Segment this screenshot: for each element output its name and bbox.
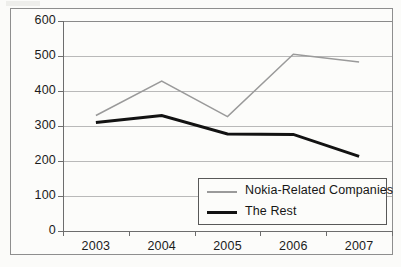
legend-swatch-icon-series-a — [207, 191, 237, 193]
legend-item-the-rest: The Rest — [199, 202, 388, 224]
scanned-page-surface: 6005004003002001000 20032004200520062007… — [0, 0, 401, 267]
chart-legend: Nokia-Related Companies The Rest — [198, 178, 387, 225]
line-chart: 6005004003002001000 20032004200520062007… — [0, 0, 401, 267]
data-series-layer — [0, 0, 401, 267]
legend-label-series-b: The Rest — [245, 204, 297, 218]
legend-swatch-icon-series-b — [207, 211, 237, 214]
legend-label-series-a: Nokia-Related Companies — [245, 183, 393, 197]
legend-item-nokia-related-companies: Nokia-Related Companies — [199, 181, 388, 203]
series-line-the-rest — [96, 116, 359, 157]
series-line-nokia-related-companies — [96, 54, 359, 116]
